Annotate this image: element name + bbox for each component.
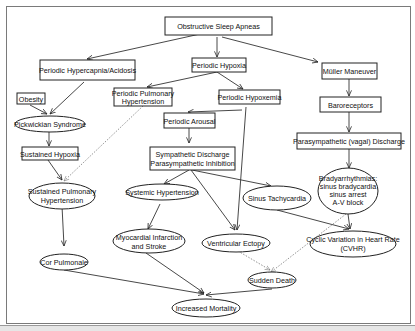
edge-brady-cvhr: [348, 214, 350, 229]
node-pickwickian-label: Pickwickian Syndrome: [14, 120, 86, 129]
node-baroreceptors-label: Baroreceptors: [328, 101, 374, 110]
node-hypoxemia: Periodic Hypoxemia: [218, 90, 282, 104]
edge-symp-systemic: [164, 170, 189, 184]
node-symp: Sympathetic Discharge Parasympathetic In…: [150, 147, 235, 170]
node-vent-ectopy-label: Ventricular Ectopy: [207, 239, 265, 248]
edge-mi-mortality: [146, 253, 204, 293]
node-hypercapnia-label: Periodic Hypercapnia/Acidosis: [39, 66, 136, 75]
node-obesity-label: Obesity: [19, 95, 44, 104]
node-baroreceptors: Baroreceptors: [320, 97, 381, 112]
node-sudden-death: Sudden Death: [248, 272, 296, 288]
edge-ventectopy-suddendeath-dotted: [238, 251, 270, 270]
node-brady-label-4: A-V block: [333, 198, 364, 207]
node-vent-ectopy: Ventricular Ectopy: [202, 234, 270, 252]
node-hypercapnia: Periodic Hypercapnia/Acidosis: [39, 60, 136, 80]
node-systemic-htn-label: Systemic Hypertension: [125, 188, 199, 197]
edge-ppulm-spulm-dotted: [64, 106, 143, 181]
node-cor-pulmonale-label: Cor Pulmonale: [40, 258, 88, 267]
node-cvhr: Cyclic Variation in Heart Rate (CVHR): [306, 231, 399, 257]
node-sustained-hypoxia-label: Sustained Hypoxia: [20, 150, 80, 159]
node-ppulm-label-2: Hypertension: [122, 97, 164, 106]
edge-spulm-corpulmonale: [62, 206, 64, 246]
node-sustained-hypoxia: Sustained Hypoxia: [20, 147, 80, 160]
edge-obesity-pickwickian: [30, 105, 47, 114]
edge-symp-tachy: [192, 170, 271, 186]
node-mi-label-2: and Stroke: [132, 242, 167, 251]
edge-systemic-mi: [148, 204, 160, 229]
edge-hypoxia-hypoxemia: [217, 72, 243, 89]
node-mi: Myocardial Infarction and Stroke: [113, 229, 185, 253]
node-vagal: Parasympathetic (vagal) Discharge: [293, 133, 405, 149]
node-hypoxia-label: Periodic Hypoxia: [192, 61, 246, 70]
node-osa: Obstructive Sleep Apneas: [165, 17, 272, 35]
node-sustained-pulm-htn: Sustained Pulmonary Hypertension: [28, 183, 97, 209]
node-cvhr-label-1: Cyclic Variation in Heart Rate: [306, 235, 399, 244]
node-hypoxia: Periodic Hypoxia: [192, 58, 246, 72]
node-muller-label: Müller Maneuver: [323, 67, 377, 76]
node-cor-pulmonale: Cor Pulmonale: [40, 254, 88, 270]
node-obesity: Obesity: [17, 93, 45, 104]
node-brady: Bradyarrhythmias: sinus bradycardia sinu…: [318, 168, 378, 214]
node-sinus-tachy-label: Sinus Tachycardia: [248, 194, 306, 203]
node-spulm-label-1: Sustained Pulmonary: [28, 187, 97, 196]
node-cvhr-label-2: (CVHR): [340, 244, 365, 253]
node-pickwickian: Pickwickian Syndrome: [14, 116, 86, 132]
node-arousal-label: Periodic Arousal: [164, 117, 216, 126]
node-osa-label: Obstructive Sleep Apneas: [177, 22, 260, 31]
edge-symp-ventectopy: [191, 170, 235, 230]
edge-hypoxia-ppulm: [147, 72, 217, 87]
node-muller: Müller Maneuver: [322, 63, 377, 79]
node-increased-mortality: Increased Mortality: [172, 299, 240, 317]
node-spulm-label-2: Hypertension: [41, 196, 83, 205]
node-sudden-death-label: Sudden Death: [249, 276, 295, 285]
edge-sushypoxia-spulm: [48, 160, 62, 180]
edge-corpulmonale-mortality: [64, 270, 204, 294]
node-symp-label-1: Sympathetic Discharge: [156, 150, 230, 159]
node-vagal-label: Parasympathetic (vagal) Discharge: [293, 137, 405, 146]
node-systemic-htn: Systemic Hypertension: [125, 184, 199, 200]
node-arousal: Periodic Arousal: [164, 113, 216, 128]
node-increased-mortality-label: Increased Mortality: [176, 304, 237, 313]
node-sinus-tachy: Sinus Tachycardia: [243, 186, 311, 210]
edge-hypoxemia-ventectopy: [237, 107, 246, 230]
node-symp-label-2: Parasympathetic Inhibition: [150, 159, 234, 168]
edge-suddendeath-mortality: [206, 289, 272, 295]
edge-hypercapnia-pickwickian: [50, 82, 84, 114]
node-hypoxemia-label: Periodic Hypoxemia: [218, 93, 282, 102]
edge-hypoxemia-arousal: [188, 110, 242, 112]
edge-osa-hypercapnia: [87, 34, 200, 59]
node-ppulm: Periodic Pulmonary Hypertension: [112, 88, 175, 106]
